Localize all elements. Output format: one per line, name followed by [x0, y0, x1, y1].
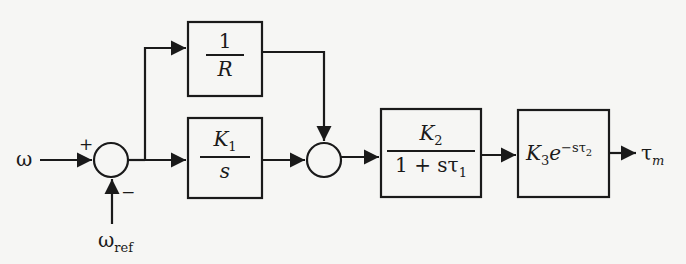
lag-numerator-base: K — [419, 121, 434, 145]
output-label: τm — [641, 141, 664, 168]
lag-denominator-prefix: 1 + s — [395, 153, 447, 177]
output-base: τ — [641, 141, 652, 165]
block-diagram-canvas — [0, 0, 686, 264]
integrator-numerator: K1 — [209, 128, 240, 156]
lag-numerator: K2 — [415, 122, 446, 150]
integrator-numerator-base: K — [213, 127, 228, 151]
delay-exp-tau: τ — [579, 140, 586, 155]
delay-exp-prefix: −s — [561, 140, 579, 155]
droop-denominator: R — [213, 56, 236, 80]
delay-exponent: −sτ2 — [561, 140, 592, 155]
lag-block: K2 1 + sτ1 — [381, 122, 481, 180]
lag-numerator-sub: 2 — [434, 133, 442, 148]
summing-junction-2 — [307, 143, 341, 177]
lag-denominator: 1 + sτ1 — [391, 152, 471, 180]
droop-numerator: 1 — [215, 30, 236, 54]
plus-sign: + — [79, 134, 93, 154]
delay-exp-sub: 2 — [586, 147, 592, 158]
omega-ref-label: ωref — [98, 228, 133, 255]
lag-denominator-tau: τ — [448, 153, 459, 177]
output-sub: m — [652, 153, 664, 168]
omega-ref-sub: ref — [114, 240, 133, 255]
integrator-numerator-sub: 1 — [228, 139, 236, 154]
lag-denominator-sub: 1 — [459, 165, 467, 180]
droop-block: 1 R — [188, 30, 262, 80]
droop-to-sum2-arrow — [262, 52, 324, 141]
delay-exp-base: e — [549, 141, 561, 165]
summing-junction-1 — [94, 143, 128, 177]
integrator-block: K1 s — [188, 128, 262, 182]
omega-input-label: ω — [16, 147, 32, 171]
omega-ref-base: ω — [98, 228, 114, 252]
delay-gain-base: K — [526, 141, 541, 165]
delay-gain-sub: 3 — [541, 153, 549, 168]
branch-to-droop-arrow — [145, 48, 186, 160]
minus-sign: − — [121, 182, 135, 202]
integrator-denominator: s — [216, 158, 234, 182]
delay-block: K3e−sτ2 — [526, 140, 592, 168]
